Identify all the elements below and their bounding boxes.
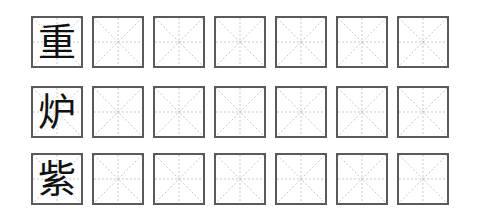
row-3: 紫 — [31, 153, 449, 205]
mi-grid-guide-icon — [155, 18, 203, 66]
model-character-cell: 重 — [31, 16, 83, 68]
practice-cell[interactable] — [275, 153, 327, 205]
mi-grid-guide-icon — [338, 155, 386, 203]
model-character: 炉 — [33, 88, 81, 136]
mi-grid-guide-icon — [399, 155, 447, 203]
model-character-cell: 紫 — [31, 153, 83, 205]
mi-grid-guide-icon — [94, 155, 142, 203]
practice-cell[interactable] — [275, 16, 327, 68]
mi-grid-guide-icon — [94, 18, 142, 66]
practice-cell[interactable] — [153, 86, 205, 138]
practice-cell[interactable] — [214, 16, 266, 68]
mi-grid-guide-icon — [155, 88, 203, 136]
model-character: 重 — [33, 18, 81, 66]
practice-cell[interactable] — [397, 16, 449, 68]
practice-cell[interactable] — [336, 16, 388, 68]
practice-cell[interactable] — [397, 86, 449, 138]
mi-grid-guide-icon — [399, 88, 447, 136]
mi-grid-guide-icon — [216, 18, 264, 66]
practice-cell[interactable] — [92, 153, 144, 205]
practice-cell[interactable] — [214, 153, 266, 205]
mi-grid-guide-icon — [277, 18, 325, 66]
practice-cell[interactable] — [214, 86, 266, 138]
mi-grid-guide-icon — [399, 18, 447, 66]
practice-cell[interactable] — [153, 153, 205, 205]
practice-cell[interactable] — [336, 86, 388, 138]
practice-cell[interactable] — [153, 16, 205, 68]
mi-grid-guide-icon — [277, 88, 325, 136]
mi-grid-guide-icon — [338, 18, 386, 66]
row-2: 炉 — [31, 86, 449, 138]
model-character: 紫 — [33, 155, 81, 203]
mi-grid-guide-icon — [277, 155, 325, 203]
model-character-cell: 炉 — [31, 86, 83, 138]
mi-grid-guide-icon — [155, 155, 203, 203]
practice-cell[interactable] — [92, 86, 144, 138]
practice-cell[interactable] — [397, 153, 449, 205]
row-1: 重 — [31, 16, 449, 68]
practice-cell[interactable] — [92, 16, 144, 68]
practice-cell[interactable] — [275, 86, 327, 138]
mi-grid-guide-icon — [216, 155, 264, 203]
mi-grid-guide-icon — [338, 88, 386, 136]
practice-cell[interactable] — [336, 153, 388, 205]
mi-grid-guide-icon — [216, 88, 264, 136]
mi-grid-guide-icon — [94, 88, 142, 136]
